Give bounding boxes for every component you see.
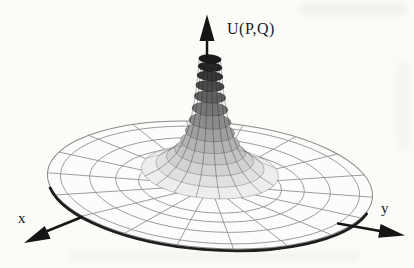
surface-plot	[0, 0, 414, 268]
vertical-axis-label: U(P,Q)	[227, 21, 275, 37]
x-axis-label: x	[18, 211, 26, 226]
scanned-figure-page: U(P,Q) x y	[0, 0, 414, 268]
y-axis-label: y	[381, 201, 389, 216]
